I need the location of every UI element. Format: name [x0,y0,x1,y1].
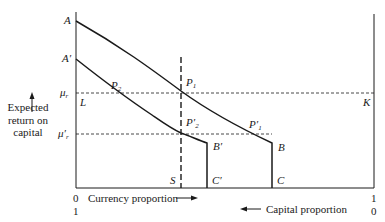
diagram-canvas [0,0,385,222]
y-axis-label-line-3: capital [4,126,52,139]
label-P2-sub: 2 [118,85,122,93]
left-arrow-icon [240,207,247,212]
currency-proportion-label: Currency proportion [88,192,178,204]
y-axis-label-line-1: Expected [4,101,52,114]
tick-left-bottom: 1 [73,205,79,217]
label-A: A [64,15,71,26]
curve-A-B [76,21,272,188]
label-L: L [80,97,86,108]
tick-right-bottom: 0 [371,205,377,217]
label-mu-r-sub: r [66,92,69,100]
label-mu-r: μr [60,87,68,100]
label-P1-sub: 1 [193,82,197,90]
label-P2-main: P [111,79,118,91]
label-P2: P2 [111,80,121,93]
tick-left-top: 0 [73,192,79,204]
label-P1-prime: P′1 [249,119,262,132]
label-P1-prime-sub: 1 [258,124,262,132]
label-S: S [170,175,176,186]
label-C: C [277,175,284,186]
label-B: B [278,142,285,153]
label-K: K [363,97,370,108]
label-P2-prime-sub: 2 [195,122,199,130]
label-P1-main: P [186,76,193,88]
right-arrow-icon [191,196,198,201]
tick-right-top: 1 [371,192,377,204]
label-B-prime: B′ [213,141,222,152]
label-C-prime: C′ [212,175,222,186]
capital-proportion-label: Capital proportion [266,203,347,215]
label-mu-r-prime: μ′r [58,128,69,141]
up-arrow-icon [30,92,35,99]
y-axis-label-line-2: return on [4,114,52,127]
label-P1-prime-main: P′ [249,118,258,130]
label-P2-prime-main: P′ [186,116,195,128]
label-A-prime: A′ [62,53,71,64]
label-mu-r-prime-main: μ′ [58,127,66,139]
label-P1: P1 [186,77,196,90]
label-mu-r-prime-sub: r [66,133,69,141]
label-P2-prime: P′2 [186,117,199,130]
y-axis-label: Expected return on capital [4,101,52,139]
